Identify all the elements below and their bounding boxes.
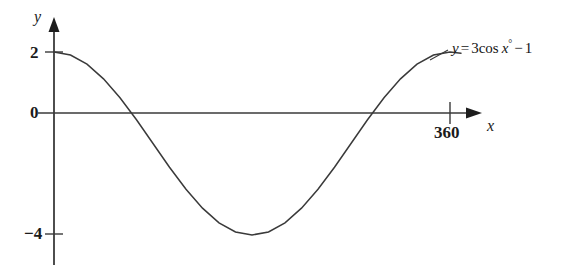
equation-minus: − [512, 40, 524, 56]
equation-coefficient: 3 [471, 40, 479, 56]
x-axis [38, 108, 482, 119]
x-tick-label-360: 360 [434, 124, 460, 141]
y-tick-label-0: 0 [30, 104, 39, 121]
cosine-curve [54, 52, 461, 235]
x-axis-arrowhead [466, 108, 482, 119]
x-axis-label: x [487, 118, 494, 134]
equation-function: cos [479, 40, 499, 56]
y-axis [49, 17, 60, 265]
y-axis-arrowhead [49, 17, 60, 32]
equation-equals: = [459, 40, 471, 56]
y-tick-label-2: 2 [30, 44, 39, 61]
y-axis-label: y [34, 9, 41, 25]
y-tick-label-neg4: −4 [24, 225, 42, 242]
graph-figure: 2 0 −4 360 y x y=3cosx°−1 [0, 0, 567, 278]
equation-annotation: y=3cosx°−1 [452, 39, 532, 56]
equation-constant: 1 [525, 40, 533, 56]
equation-lhs: y [452, 40, 459, 56]
equation-variable: x [499, 40, 509, 56]
